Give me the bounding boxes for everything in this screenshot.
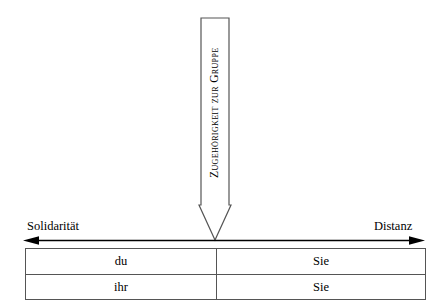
axis-label-solidaritaet: Solidarität [27,220,79,233]
cell-formal-plural: Sie [217,274,426,300]
register-table: du Sie ihr Sie [25,248,426,300]
table-row: ihr Sie [26,274,426,300]
horizontal-double-arrow-icon [22,232,426,249]
arrow-right-icon [409,236,425,245]
table-row: du Sie [26,249,426,275]
cell-informal-plural: ihr [26,274,217,300]
axis-label-distanz: Distanz [374,220,412,233]
pronoun-register-diagram: Zugehörigkeit zur Gruppe Solidarität Dis… [0,0,443,306]
arrow-down-icon [196,14,236,246]
cell-informal-singular: du [26,249,217,275]
cell-formal-singular: Sie [217,249,426,275]
